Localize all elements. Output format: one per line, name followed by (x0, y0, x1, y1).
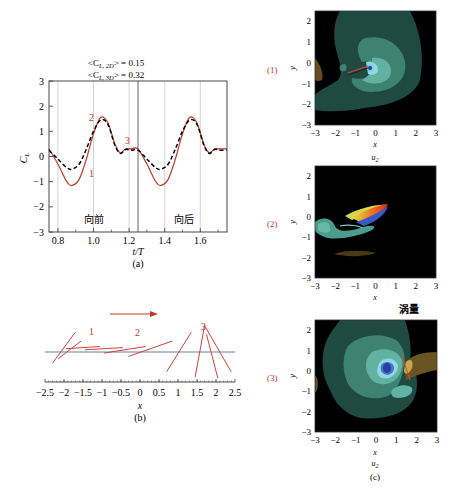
y-tick-label: 0 (307, 212, 312, 222)
y-tick-label: −3 (301, 120, 311, 130)
chart-a-xlabel: t/T (132, 246, 145, 257)
y-tick-label: −3 (33, 227, 44, 238)
y-tick-label: −1 (301, 386, 311, 396)
x-tick-label: 2 (214, 387, 219, 398)
x-tick-label: −1 (351, 435, 361, 445)
contour-2-background (315, 166, 436, 278)
y-tick-label: −2 (33, 201, 44, 212)
x-tick-label: 1 (394, 435, 399, 445)
y-tick-label: 1 (39, 126, 44, 137)
contour-panel-3: −3−2−10123210−1−2−3 (3) y x u2 (c) (267, 320, 440, 482)
contour-3-caption: u2 (372, 459, 379, 469)
plate-line (58, 341, 81, 359)
label-backward: 向后 (174, 213, 194, 225)
x-tick-label: −2.5 (36, 387, 54, 398)
x-tick-label: 0.8 (52, 235, 65, 246)
y-tick-label: 1 (307, 346, 312, 356)
x-tick-label: 0.5 (153, 387, 166, 398)
y-tick-label: −1 (301, 232, 311, 242)
plate-line (85, 348, 123, 350)
panel-b-label: (b) (134, 412, 146, 424)
x-tick-label: −1 (97, 387, 108, 398)
x-tick-label: 1 (176, 387, 181, 398)
x-tick-label: 2 (414, 281, 419, 291)
x-tick-label: 0 (374, 435, 379, 445)
y-tick-label: 1 (307, 192, 312, 202)
chart-b-xlabel: x (137, 400, 143, 411)
chart-b: 1 2 3 −2.5−2−1.5−1−0.500.511.522.5 x (b) (36, 311, 241, 424)
contour-2-xlabel: x (372, 293, 377, 302)
x-tick-label: 0 (138, 387, 143, 398)
x-tick-label: 1.4 (158, 235, 171, 246)
x-tick-label: 0 (373, 281, 378, 291)
x-tick-label: 2 (414, 128, 419, 138)
contour-2-caption: 涡量 (399, 303, 419, 315)
contour-1-xlabel: x (372, 140, 377, 149)
y-tick-label: 2 (307, 171, 312, 181)
chart-a-title-line1: <CL, 2D> = 0.15 (88, 58, 145, 69)
b-phase-label-1: 1 (89, 326, 94, 337)
motion-arrow-icon (110, 311, 158, 317)
x-tick-label: −2 (59, 387, 70, 398)
y-tick-label: −1 (33, 176, 44, 187)
x-tick-label: −2 (330, 128, 340, 138)
x-tick-label: 1 (393, 281, 398, 291)
x-tick-label: −3 (310, 128, 320, 138)
contour-3-xlabel: x (372, 448, 377, 457)
x-tick-label: 0 (373, 128, 378, 138)
x-tick-label: −2 (331, 435, 341, 445)
chart-a-gridlines (58, 81, 200, 232)
plate-line (66, 347, 100, 349)
x-tick-label: −3 (310, 281, 320, 291)
contour-panel-2: −3−2−10123210−1−2−3 (2) y x 涡量 (267, 166, 439, 315)
row-label-3: (3) (267, 373, 278, 383)
contour-2-ylabel: y (287, 220, 297, 225)
x-tick-label: 1.5 (191, 387, 204, 398)
plate-line (207, 334, 218, 378)
x-tick-label: 3 (434, 128, 439, 138)
x-tick-label: 1.6 (194, 235, 207, 246)
x-tick-label: 2 (414, 435, 419, 445)
y-tick-label: 3 (39, 76, 44, 87)
chart-a: <CL, 2D> = 0.15 <CL, 3D> = 0.32 3210−1−2… (18, 58, 227, 270)
y-tick-label: 2 (307, 16, 312, 26)
phase-label-1: 1 (89, 168, 94, 179)
contour-3-ylabel: y (287, 374, 297, 379)
x-tick-label: 1.2 (123, 235, 136, 246)
chart-a-ylabel: CL (18, 153, 31, 164)
label-forward: 向前 (84, 213, 104, 225)
contour-panel-1: −3−2−10123210−1−2−3 (1) y x u2 (267, 11, 439, 163)
x-tick-label: −1 (351, 281, 361, 291)
x-tick-label: 1.0 (87, 235, 100, 246)
x-tick-label: 2.5 (229, 387, 242, 398)
plate-line (129, 341, 173, 356)
y-tick-label: −2 (301, 253, 311, 263)
panel-c-label: (c) (370, 472, 380, 482)
y-tick-label: −2 (301, 99, 311, 109)
y-tick-label: −2 (301, 407, 311, 417)
row-label-2: (2) (267, 219, 278, 229)
x-tick-label: 1 (393, 128, 398, 138)
x-tick-label: −2 (330, 281, 340, 291)
b-phase-label-3: 3 (201, 321, 206, 332)
x-tick-label: −0.5 (112, 387, 130, 398)
plate-line (195, 326, 205, 378)
b-phase-label-2: 2 (135, 327, 140, 338)
y-tick-label: 2 (39, 101, 44, 112)
y-tick-label: 1 (307, 37, 312, 47)
y-tick-label: −1 (301, 79, 311, 89)
row-label-1: (1) (267, 65, 278, 75)
y-tick-label: 0 (307, 58, 312, 68)
y-tick-label: 2 (307, 325, 312, 335)
contour-1-ylabel: y (287, 66, 297, 71)
y-tick-label: 0 (39, 151, 44, 162)
phase-label-3: 3 (125, 135, 130, 146)
panel-a-label: (a) (132, 258, 143, 270)
contour-1-caption: u2 (372, 153, 379, 163)
y-tick-label: −3 (301, 427, 311, 437)
y-tick-label: −3 (301, 273, 311, 283)
y-tick-label: 0 (307, 366, 312, 376)
x-tick-label: 3 (435, 435, 440, 445)
x-tick-label: 3 (434, 281, 439, 291)
x-tick-label: −3 (310, 435, 320, 445)
